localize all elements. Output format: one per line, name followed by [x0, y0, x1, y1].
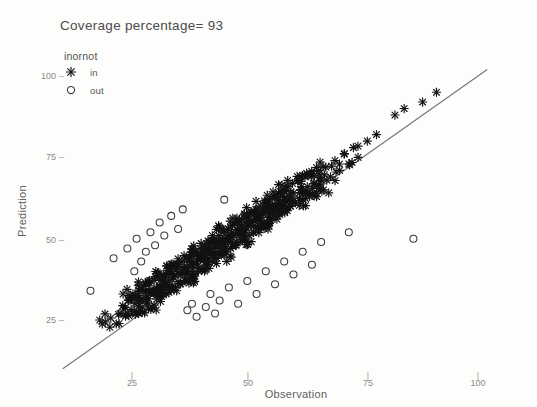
data-point-in: [134, 302, 142, 310]
data-point-in: [235, 217, 243, 225]
data-point-in: [331, 176, 339, 184]
data-point-in: [297, 177, 305, 185]
legend-item-out[interactable]: out: [62, 82, 104, 98]
data-point-in: [186, 275, 194, 283]
data-point-in: [217, 251, 225, 259]
data-point-in: [269, 188, 277, 196]
data-point-in: [116, 309, 124, 317]
data-point-in: [285, 192, 293, 200]
x-tick-100: |100: [470, 374, 485, 388]
data-point-out: [410, 235, 417, 242]
data-point-in: [298, 171, 306, 179]
data-point-in: [142, 286, 150, 294]
data-point-in: [204, 237, 212, 245]
data-point-out: [212, 310, 219, 317]
data-point-in: [140, 309, 148, 317]
data-point-in: [187, 248, 195, 256]
chart-canvas: Coverage percentage= 93 inornot in: [0, 0, 537, 407]
data-point-in: [156, 282, 164, 290]
data-point-in: [275, 207, 283, 215]
data-point-in: [205, 246, 213, 254]
data-point-in: [216, 223, 224, 231]
data-point-in: [274, 196, 282, 204]
data-point-in: [257, 212, 265, 220]
data-point-in: [174, 260, 182, 268]
data-point-in: [283, 207, 291, 215]
data-point-in: [171, 271, 179, 279]
data-point-in: [172, 266, 180, 274]
data-point-in: [315, 184, 323, 192]
data-point-in: [202, 251, 210, 259]
data-point-in: [212, 225, 220, 233]
legend-item-in[interactable]: in: [62, 64, 104, 80]
data-point-in: [264, 221, 272, 229]
chart-title: Coverage percentage= 93: [60, 18, 360, 33]
data-point-in: [317, 176, 325, 184]
data-point-in: [295, 194, 303, 202]
data-point-in: [165, 284, 173, 292]
data-point-in: [301, 202, 309, 210]
data-point-in: [215, 250, 223, 258]
data-point-in: [157, 292, 165, 300]
data-point-in: [240, 232, 248, 240]
data-point-in: [161, 273, 169, 281]
data-point-out: [131, 268, 138, 275]
data-point-in: [180, 276, 188, 284]
data-point-in: [191, 272, 199, 280]
data-point-out: [110, 255, 117, 262]
data-point-in: [264, 218, 272, 226]
data-point-in: [336, 166, 344, 174]
data-point-in: [201, 251, 209, 259]
data-point-in: [223, 232, 231, 240]
data-point-in: [189, 279, 197, 287]
data-point-in: [136, 296, 144, 304]
data-point-in: [180, 251, 188, 259]
data-point-in: [96, 316, 104, 324]
data-point-in: [114, 310, 122, 318]
data-point-in: [168, 264, 176, 272]
data-point-in: [287, 197, 295, 205]
data-point-in: [266, 207, 274, 215]
data-point-in: [265, 201, 273, 209]
data-point-in: [160, 280, 168, 288]
data-point-in: [363, 137, 371, 145]
data-point-in: [233, 226, 241, 234]
data-point-in: [232, 241, 240, 249]
data-point-in: [209, 239, 217, 247]
data-point-in: [260, 224, 268, 232]
data-point-in: [252, 223, 260, 231]
data-point-in: [310, 192, 318, 200]
data-point-in: [135, 309, 143, 317]
data-point-in: [372, 130, 380, 138]
data-point-in: [134, 278, 142, 286]
data-point-out: [253, 290, 260, 297]
data-point-in: [168, 262, 176, 270]
data-point-in: [288, 179, 296, 187]
data-point-in: [115, 319, 123, 327]
data-point-in: [272, 202, 280, 210]
data-point-in: [208, 232, 216, 240]
data-point-in: [168, 260, 176, 268]
data-point-in: [280, 193, 288, 201]
data-point-in: [276, 210, 284, 218]
data-point-in: [215, 231, 223, 239]
data-point-in: [264, 225, 272, 233]
data-point-in: [107, 314, 115, 322]
data-point-in: [160, 285, 168, 293]
data-point-in: [273, 212, 281, 220]
data-point-in: [303, 171, 311, 179]
data-point-in: [279, 205, 287, 213]
data-point-in: [205, 248, 213, 256]
data-point-in: [192, 257, 200, 265]
data-point-in: [136, 287, 144, 295]
data-point-in: [228, 221, 236, 229]
data-point-in: [222, 248, 230, 256]
data-point-in: [268, 210, 276, 218]
data-point-in: [264, 220, 272, 228]
data-point-in: [181, 262, 189, 270]
data-point-in: [125, 312, 133, 320]
data-point-in: [181, 266, 189, 274]
data-point-in: [126, 296, 134, 304]
data-point-in: [309, 184, 317, 192]
data-point-in: [167, 267, 175, 275]
